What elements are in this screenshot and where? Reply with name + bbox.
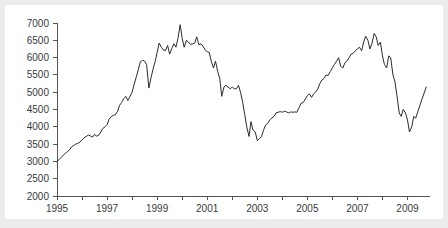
x-tick-label: 2001 — [196, 203, 219, 214]
y-tick-label: 2500 — [27, 173, 50, 184]
figure-frame: 2000250030003500400045005000550060006500… — [0, 0, 448, 228]
x-tick-label: 2005 — [296, 203, 319, 214]
y-axis-ticks: 2000250030003500400045005000550060006500… — [27, 18, 57, 202]
x-tick-label: 1997 — [96, 203, 119, 214]
x-tick-label: 1999 — [146, 203, 169, 214]
y-tick-label: 6000 — [27, 52, 50, 63]
y-tick-label: 2000 — [27, 191, 50, 202]
x-tick-label: 1995 — [46, 203, 69, 214]
chart-card: 2000250030003500400045005000550060006500… — [5, 5, 443, 219]
index-series-line — [57, 25, 426, 162]
x-tick-label: 2009 — [396, 203, 419, 214]
y-tick-label: 3500 — [27, 139, 50, 150]
x-tick-label: 2003 — [246, 203, 269, 214]
y-tick-label: 5500 — [27, 69, 50, 80]
x-axis-ticks: 19951997199920012003200520072009 — [46, 196, 419, 214]
line-chart[interactable]: 2000250030003500400045005000550060006500… — [5, 5, 443, 219]
y-tick-label: 3000 — [27, 156, 50, 167]
y-tick-label: 6500 — [27, 35, 50, 46]
y-tick-label: 4500 — [27, 104, 50, 115]
y-tick-label: 7000 — [27, 18, 50, 29]
y-tick-label: 5000 — [27, 87, 50, 98]
y-tick-label: 4000 — [27, 121, 50, 132]
x-tick-label: 2007 — [346, 203, 369, 214]
